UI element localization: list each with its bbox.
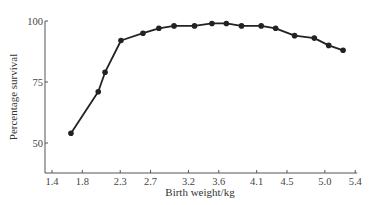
y-tick-label: 50 [33,138,44,149]
x-tick-label: 4.5 [280,176,293,187]
data-point-marker [258,23,264,29]
data-point-marker [239,23,245,29]
data-point-marker [192,23,198,29]
x-tick-label: 2.7 [144,176,157,187]
axes [45,21,357,173]
series-line [71,23,343,133]
x-tick-label: 4.1 [250,176,263,187]
y-tick-label: 75 [33,77,44,88]
data-point-marker [311,35,317,41]
x-tick-label: 1.8 [76,176,89,187]
x-tick-label: 2.3 [114,176,127,187]
data-point-marker [118,38,124,44]
data-point-marker [156,26,162,32]
data-point-marker [326,43,332,49]
y-tick-label: 100 [27,16,43,27]
x-axis-title: Birth weight/kg [165,186,235,198]
data-point-marker [102,69,108,75]
data-point-marker [224,21,230,27]
data-series [68,21,346,136]
x-tick-label: 5.0 [318,176,331,187]
x-tick-label: 5.4 [349,176,363,187]
data-point-marker [95,89,101,95]
data-point-marker [68,130,74,136]
data-point-marker [340,47,346,53]
y-axis-title: Percentage survival [7,54,19,140]
data-point-marker [171,23,177,29]
survival-line-chart: 1.41.82.32.73.23.64.14.55.05.4 5075100 B… [0,0,378,205]
data-point-marker [209,21,215,27]
x-tick-label: 1.4 [45,176,59,187]
data-point-marker [292,33,298,39]
data-point-marker [273,26,279,32]
data-point-marker [140,30,146,36]
